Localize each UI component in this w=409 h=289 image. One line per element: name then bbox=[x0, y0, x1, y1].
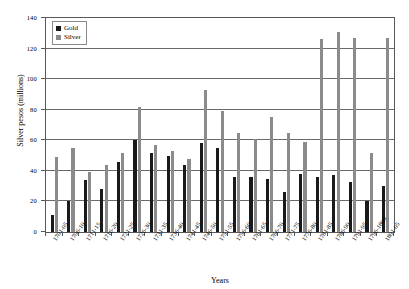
bar-silver-1796-1800 bbox=[370, 153, 373, 232]
y-tick-label: 40 bbox=[30, 166, 37, 173]
y-tick-label: 100 bbox=[27, 75, 37, 82]
bar-silver-1771-75 bbox=[287, 133, 290, 232]
chart-legend: Gold Silver bbox=[52, 21, 87, 45]
bar-silver-1756-60 bbox=[237, 133, 240, 232]
bar-silver-1801-05 bbox=[386, 38, 389, 232]
legend-label-gold: Gold bbox=[64, 24, 78, 33]
bar-silver-1726-30 bbox=[138, 107, 141, 232]
x-axis-title: Years bbox=[45, 276, 395, 285]
bar-silver-1761-65 bbox=[254, 139, 257, 232]
legend-item-gold: Gold bbox=[56, 24, 81, 33]
bar-gold-1701-05 bbox=[51, 215, 54, 232]
bar-gold-1706-10 bbox=[67, 201, 70, 232]
bar-silver-1731-35 bbox=[154, 145, 157, 232]
bar-silver-1706-10 bbox=[71, 148, 74, 232]
bar-silver-1741-45 bbox=[187, 159, 190, 232]
bar-silver-1746-50 bbox=[204, 90, 207, 232]
bar-gold-1741-45 bbox=[183, 165, 186, 232]
y-tick-label: 120 bbox=[27, 44, 37, 51]
bar-silver-1776-80 bbox=[303, 142, 306, 232]
plot-area bbox=[45, 17, 395, 233]
bar-silver-1781-85 bbox=[320, 39, 323, 232]
y-tick-label: 20 bbox=[30, 197, 37, 204]
bar-gold-1751-55 bbox=[216, 148, 219, 232]
bar-silver-1711-15 bbox=[88, 172, 91, 232]
bar-gold-1736-40 bbox=[167, 156, 170, 232]
y-tick-label: 60 bbox=[30, 136, 37, 143]
y-tick-label: 140 bbox=[27, 14, 37, 21]
x-tick-mark bbox=[45, 233, 46, 236]
y-tick-label: 80 bbox=[30, 105, 37, 112]
gold-swatch-icon bbox=[56, 26, 61, 31]
bar-silver-1736-40 bbox=[171, 151, 174, 232]
bar-silver-1791-95 bbox=[353, 38, 356, 232]
bar-silver-1721-25 bbox=[121, 153, 124, 232]
bar-silver-1701-05 bbox=[55, 157, 58, 232]
bar-silver-1751-55 bbox=[221, 111, 224, 232]
bar-gold-1746-50 bbox=[200, 143, 203, 232]
bar-silver-1786-90 bbox=[337, 32, 340, 232]
legend-label-silver: Silver bbox=[64, 33, 81, 42]
bar-silver-1766-70 bbox=[270, 117, 273, 232]
bar-gold-1731-35 bbox=[150, 153, 153, 232]
bar-silver-1716-20 bbox=[105, 165, 108, 232]
y-axis-ticks: 020406080100120140 bbox=[0, 0, 45, 250]
bars-layer bbox=[46, 18, 394, 232]
bar-gold-1726-30 bbox=[133, 140, 136, 232]
bar-gold-1721-25 bbox=[117, 162, 120, 232]
y-tick-label: 0 bbox=[34, 228, 37, 235]
silver-swatch-icon bbox=[56, 35, 61, 40]
bar-chart: Silver pesos (millions) 0204060801001201… bbox=[0, 0, 409, 289]
legend-item-silver: Silver bbox=[56, 33, 81, 42]
